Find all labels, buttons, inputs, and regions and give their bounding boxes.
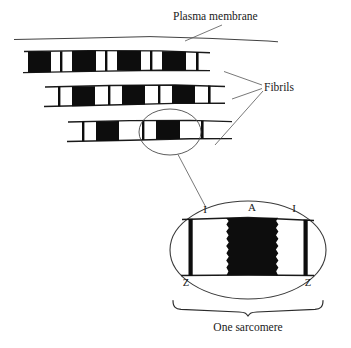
fibril-2-z-line-3 (158, 85, 160, 104)
plasma-membrane-group (14, 25, 278, 42)
fibril-1-z-line-2 (105, 51, 107, 71)
fibril-1-z-line-4 (196, 52, 199, 70)
band-label-a: A (248, 201, 256, 213)
fibril-3-z-line-2 (142, 121, 144, 140)
sarcomere-z-line-right (304, 220, 308, 276)
fibril-3-top-rail (68, 120, 232, 122)
fibril-2-a-band-2 (122, 85, 145, 105)
fibril-3-bottom-rail (67, 139, 232, 142)
fibril-2-z-line-4 (208, 86, 211, 104)
plasma-membrane-label: Plasma membrane (173, 10, 258, 22)
fibril-2-z-line-2 (108, 86, 110, 105)
sarcomere-z-line-left (189, 219, 193, 276)
fibrils-leader-line-3 (215, 91, 263, 145)
fibrils-label: Fibrils (264, 81, 295, 93)
fibril-2-a-band-1 (72, 86, 95, 106)
fibrils-leader-group (215, 72, 263, 146)
fibril-2-z-line-1 (58, 87, 60, 107)
sarcomere-brace (173, 301, 323, 317)
fibril-1-bottom-rail (23, 70, 210, 72)
z-label-right: Z (305, 277, 311, 288)
fibril-3 (67, 120, 232, 141)
fibril-1-z-line-1 (60, 51, 62, 72)
diagram-canvas: Plasma membrane (0, 0, 351, 348)
fibril-1-a-band-2 (72, 51, 96, 72)
sarcomere-brace-group (173, 301, 323, 317)
one-sarcomere-label: One sarcomere (213, 321, 282, 333)
band-label-i-left: I (203, 203, 207, 215)
fibril-1-a-band-1 (28, 51, 51, 72)
fibril-2 (44, 85, 225, 107)
magnified-sarcomere-group: I A I Z Z (170, 201, 326, 299)
fibril-3-a-band-2 (156, 120, 180, 139)
fibril-3-z-line-1 (82, 122, 84, 142)
fibril-1-a-band-3 (117, 51, 141, 71)
muscle-fibril-diagram: Plasma membrane (0, 0, 351, 348)
fibril-1 (23, 51, 210, 73)
magnification-connector-line (178, 155, 206, 208)
band-label-i-right: I (292, 202, 296, 214)
sarcomere-a-band (226, 218, 278, 275)
fibrils-leader-line-1 (224, 72, 262, 86)
fibril-3-z-line-3 (201, 121, 204, 139)
fibril-1-z-line-3 (150, 51, 152, 71)
z-label-left: Z (183, 277, 189, 288)
fibril-2-a-band-3 (172, 85, 195, 103)
plasma-membrane-line (14, 37, 278, 42)
fibril-1-a-band-4 (162, 51, 186, 70)
fibril-3-a-band-1 (96, 121, 119, 141)
